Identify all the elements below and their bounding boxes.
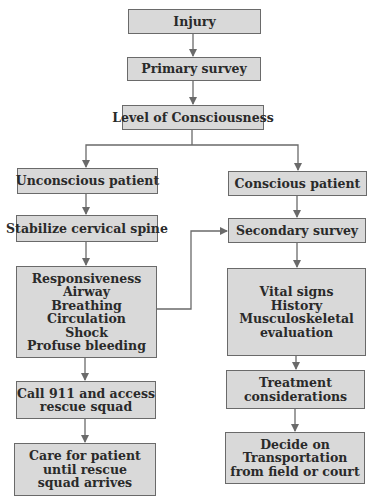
- node-label: considerations: [244, 390, 347, 404]
- node-care-for-patient: Care for patient until rescue squad arri…: [14, 443, 156, 496]
- node-label: Circulation: [47, 312, 126, 326]
- node-label: Responsiveness: [32, 272, 142, 286]
- node-label: from field or court: [230, 465, 359, 479]
- node-label: Unconscious patient: [16, 174, 159, 188]
- node-label: Shock: [65, 326, 108, 340]
- node-injury: Injury: [128, 9, 261, 34]
- node-decide-transportation: Decide on Transportation from field or c…: [225, 432, 365, 484]
- node-label: Call 911 and access: [17, 387, 155, 401]
- node-label: History: [271, 299, 323, 313]
- arrow-level-to-unconscious: [86, 145, 192, 167]
- arrow-checks-to-secondary: [156, 231, 227, 309]
- node-label: Breathing: [51, 299, 122, 313]
- node-primary-survey: Primary survey: [127, 57, 261, 81]
- node-label: Decide on: [260, 438, 330, 452]
- node-label: Care for patient: [29, 449, 141, 463]
- node-secondary-survey: Secondary survey: [228, 218, 366, 243]
- node-label: Musculoskeletal: [239, 312, 354, 326]
- node-conscious-patient: Conscious patient: [228, 171, 367, 196]
- node-abc-checks: Responsiveness Airway Breathing Circulat…: [16, 266, 157, 358]
- node-label: Injury: [173, 15, 215, 29]
- node-label: Conscious patient: [235, 177, 361, 191]
- node-vital-signs: Vital signs History Musculoskeletal eval…: [227, 268, 366, 356]
- node-label: until rescue: [43, 463, 127, 477]
- node-label: Transportation: [243, 451, 348, 465]
- node-label: Stabilize cervical spine: [6, 222, 168, 236]
- node-label: evaluation: [260, 326, 333, 340]
- arrow-level-to-conscious: [192, 145, 298, 170]
- node-label: Profuse bleeding: [27, 339, 146, 353]
- node-label: Treatment: [259, 376, 332, 390]
- node-stabilize-cervical-spine: Stabilize cervical spine: [16, 215, 158, 242]
- node-unconscious-patient: Unconscious patient: [17, 168, 158, 194]
- node-label: Airway: [63, 285, 110, 299]
- node-label: Level of Consciousness: [112, 111, 273, 125]
- node-treatment-considerations: Treatment considerations: [226, 370, 365, 409]
- node-label: squad arrives: [38, 476, 132, 490]
- node-label: Primary survey: [141, 62, 246, 76]
- node-call-911: Call 911 and access rescue squad: [16, 381, 156, 419]
- node-level-of-consciousness: Level of Consciousness: [122, 105, 264, 130]
- node-label: rescue squad: [40, 400, 132, 414]
- node-label: Secondary survey: [236, 224, 358, 238]
- node-label: Vital signs: [260, 285, 334, 299]
